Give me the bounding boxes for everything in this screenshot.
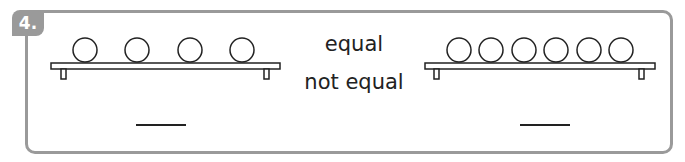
left-answer-blank[interactable] bbox=[136, 124, 186, 126]
right-shelf-with-balls bbox=[424, 34, 664, 84]
left-shelf-with-balls bbox=[50, 34, 290, 84]
right-answer-blank[interactable] bbox=[520, 124, 570, 126]
question-number-badge: 4. bbox=[12, 10, 44, 36]
option-equal[interactable]: equal bbox=[284, 32, 424, 56]
option-not-equal[interactable]: not equal bbox=[284, 70, 424, 94]
